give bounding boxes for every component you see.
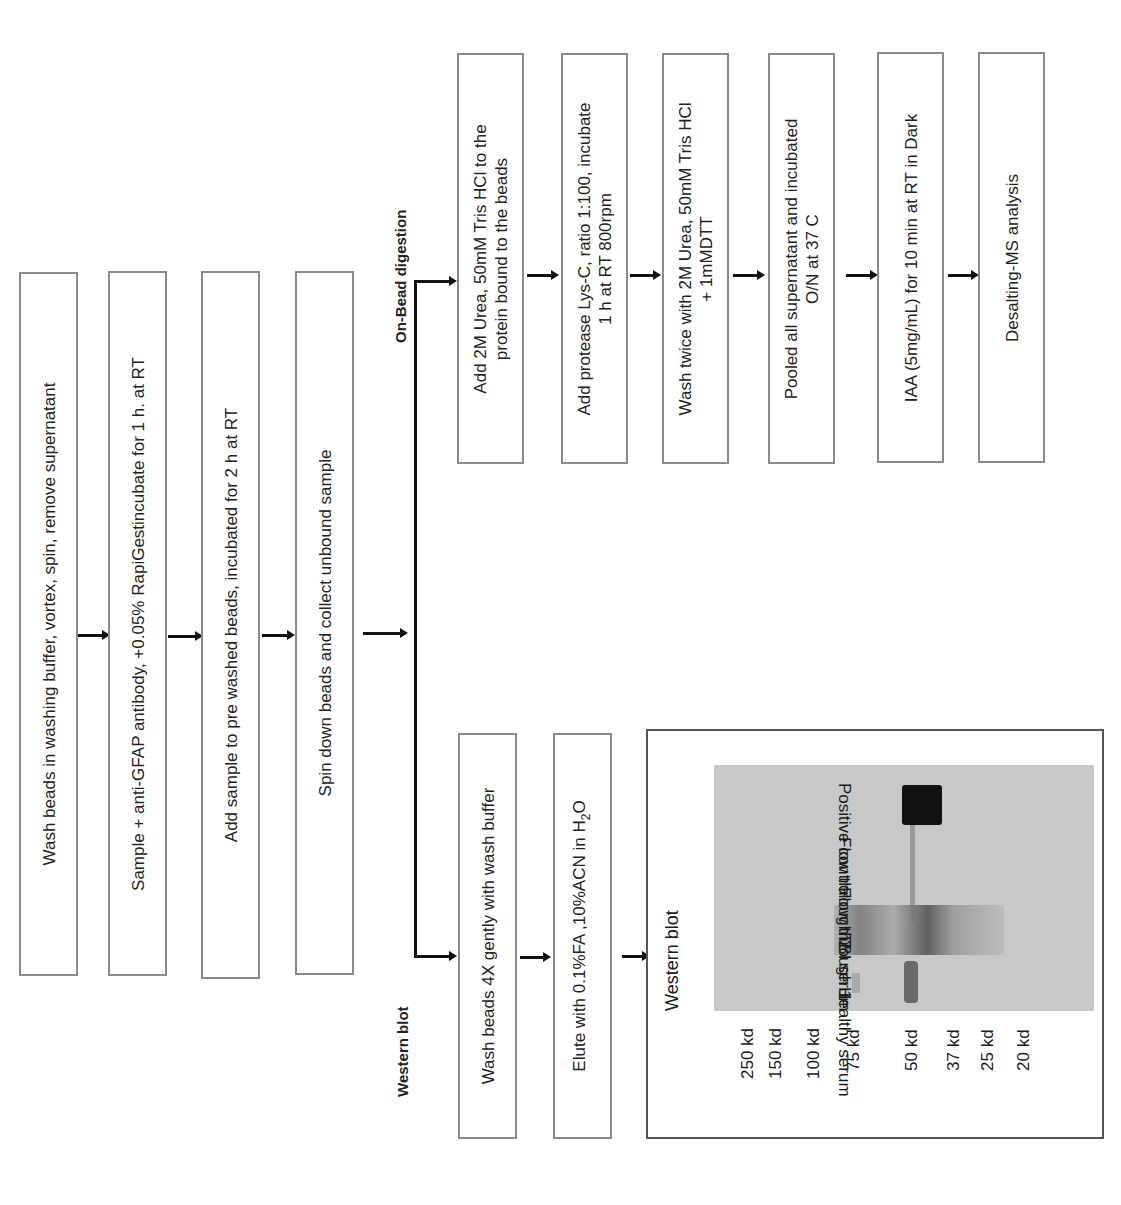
step-label: Wash twice with 2M Urea, 50mM Tris HCl+ … (675, 102, 717, 415)
arrow-icon (520, 956, 544, 959)
arrow-icon (527, 274, 552, 277)
arrow-icon (948, 274, 972, 277)
step-label: Pooled all supernatant and incubatedO/N … (781, 118, 823, 399)
on-bead-title: On-Bead digestion (392, 210, 409, 343)
band-healthy (904, 961, 918, 1003)
band-tbi (834, 905, 1004, 955)
marker-label: 100 kd (804, 1028, 824, 1079)
step-add-sample: Add sample to pre washed beads, incubate… (201, 271, 260, 979)
step-label: Spin down beads and collect unbound samp… (314, 450, 335, 797)
arrow-icon (630, 274, 654, 277)
arrow-icon (622, 955, 643, 958)
western-blot-title: Western blot (394, 1006, 411, 1097)
arrow-icon (78, 634, 103, 637)
onbead-step-pooled: Pooled all supernatant and incubatedO/N … (768, 53, 835, 464)
step-label: Wash beads 4X gently with wash buffer (477, 788, 498, 1085)
marker-label: 25 kd (978, 1029, 998, 1071)
western-step-wash: Wash beads 4X gently with wash buffer (458, 733, 517, 1139)
western-step-elute: Elute with 0.1%FA ,10%ACN in H2O (553, 733, 612, 1139)
step-label: IAA (5mg/mL) for 10 min at RT in Dark (900, 113, 921, 401)
onbead-step-desalting: Desalting-MS analysis (978, 52, 1045, 463)
arrow-icon (262, 634, 288, 637)
step-label: Wash beads in washing buffer, vortex, sp… (38, 383, 59, 866)
panel-title: Western blot (662, 910, 683, 1011)
onbead-step-urea: Add 2M Urea, 50mM Tris HCl to theprotein… (457, 53, 524, 464)
arrow-icon (363, 632, 401, 635)
marker-label: 50 kd (902, 1029, 922, 1071)
onbead-step-iaa: IAA (5mg/mL) for 10 min at RT in Dark (877, 52, 944, 463)
onbead-step-lysc: Add protease Lys-C, ratio 1:100, incubat… (561, 53, 628, 464)
step-wash-beads: Wash beads in washing buffer, vortex, sp… (19, 272, 78, 976)
arrow-icon (414, 955, 450, 958)
step-label: Sample + anti-GFAP antibody, +0.05% Rapi… (127, 357, 148, 891)
arrow-icon (733, 274, 758, 277)
western-blot-panel: Western blot Positive control Flow throu… (646, 729, 1104, 1139)
arrow-icon (168, 635, 196, 638)
step-label: Add protease Lys-C, ratio 1:100, incubat… (574, 102, 616, 415)
band-positive-control (902, 785, 942, 825)
arrow-icon (414, 280, 450, 283)
step-sample-antibody: Sample + anti-GFAP antibody, +0.05% Rapi… (108, 271, 167, 976)
step-spin-down: Spin down beads and collect unbound samp… (295, 271, 354, 975)
marker-label: 75 kd (844, 1029, 864, 1071)
onbead-step-wash-twice: Wash twice with 2M Urea, 50mM Tris HCl+ … (662, 53, 729, 464)
marker-label: 250 kd (738, 1028, 758, 1079)
blot-image: Positive control Flow through 2 Flow thr… (714, 765, 1094, 1011)
step-label: Add 2M Urea, 50mM Tris HCl to theprotein… (470, 124, 512, 393)
branch-connector (414, 280, 417, 958)
marker-label: 20 kd (1014, 1029, 1034, 1071)
arrow-icon (846, 274, 871, 277)
step-label: Add sample to pre washed beads, incubate… (220, 408, 241, 842)
step-label: Elute with 0.1%FA ,10%ACN in H2O (569, 800, 596, 1071)
step-label: Desalting-MS analysis (1001, 173, 1022, 341)
marker-label: 37 kd (944, 1029, 964, 1071)
marker-label: 150 kd (766, 1028, 786, 1079)
